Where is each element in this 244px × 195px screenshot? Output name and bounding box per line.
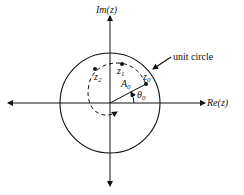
svg-text:z1: z1 [116,65,124,78]
label-z2: z2 [93,71,102,84]
complex-plane-diagram: Im(z) Re(z) unit circle z0 z1 z2 A0 θ0 [0,0,244,195]
unit-circle-leader-line [153,57,171,69]
svg-text:A0: A0 [120,78,131,91]
im-axis-label: Im(z) [95,4,118,16]
svg-text:z2: z2 [93,71,102,84]
label-magnitude: A0 [120,78,131,91]
re-axis-label: Re(z) [206,97,229,109]
angle-arc [131,92,134,103]
svg-text:θ0: θ0 [137,89,146,102]
label-z1: z1 [116,65,124,78]
unit-circle-label: unit circle [173,51,214,62]
label-angle: θ0 [137,89,146,102]
